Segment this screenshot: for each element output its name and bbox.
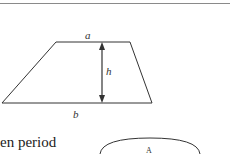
trapezoid-figure (0, 0, 230, 154)
label-a: a (85, 29, 91, 41)
label-h: h (106, 65, 112, 77)
label-b: b (73, 108, 79, 120)
label-ellipse: A (146, 146, 152, 154)
body-text: en period (0, 134, 56, 151)
